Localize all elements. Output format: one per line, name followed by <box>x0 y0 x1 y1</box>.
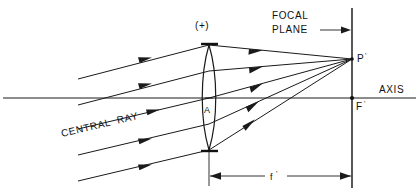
focal-point-label: F <box>356 101 363 112</box>
incoming-ray-1 <box>78 45 209 79</box>
dimension-arrowhead-left <box>210 172 221 180</box>
diagram-canvas: (+) A FOCAL PLANE P ' F ' AXIS CENTRAL R… <box>0 0 419 196</box>
image-point-marker <box>350 57 354 61</box>
focal-point-marker <box>350 96 354 100</box>
incoming-ray-2 <box>78 71 209 105</box>
incoming-ray-4-arrowhead <box>138 138 152 144</box>
axis-label: AXIS <box>379 84 404 95</box>
image-point-prime-label: ' <box>365 52 367 59</box>
central-ray-label: CENTRAL RAY <box>60 110 139 139</box>
image-point-label: P <box>357 53 364 64</box>
lens-sign-label: (+) <box>195 20 209 31</box>
incoming-rays-group <box>78 45 209 181</box>
refracted-ray-2-arrowhead <box>249 67 263 74</box>
focal-length-label: f <box>270 172 273 182</box>
focal-plane-leader-arrowhead <box>341 27 351 34</box>
incoming-ray-5-arrowhead <box>138 164 152 170</box>
lens-center-label: A <box>204 105 211 115</box>
focal-length-prime-label: ' <box>276 170 278 177</box>
refracted-ray-1 <box>209 45 352 59</box>
focal-point-prime-label: ' <box>364 100 366 107</box>
refracted-ray-5 <box>209 59 352 150</box>
incoming-ray-3-arrowhead <box>146 110 160 116</box>
focal-length-dimension-group <box>209 152 351 186</box>
refracted-ray-5-arrowhead <box>242 119 255 131</box>
focal-plane-label-line1: FOCAL <box>272 10 308 21</box>
dimension-arrowhead-right <box>340 172 351 180</box>
optics-diagram: (+) A FOCAL PLANE P ' F ' AXIS CENTRAL R… <box>0 0 419 196</box>
focal-plane-label-line2: PLANE <box>272 24 308 35</box>
refracted-ray-4-arrowhead <box>246 101 259 112</box>
